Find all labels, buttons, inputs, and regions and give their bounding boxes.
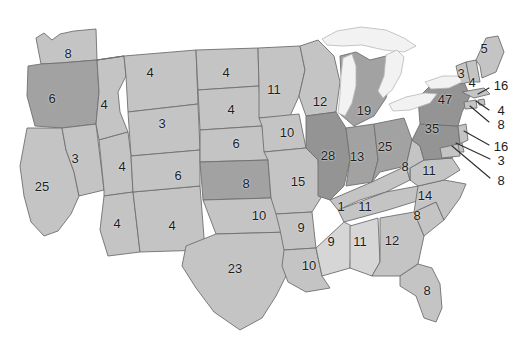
state-value-mi: 19 [357, 104, 371, 117]
state-value-tn: 11 [358, 200, 372, 213]
state-value-sd: 4 [227, 103, 234, 116]
state-value-in: 13 [350, 150, 364, 163]
state-or[interactable]: Oregon [27, 60, 99, 128]
state-value-oh: 25 [378, 140, 392, 153]
state-value-ia: 10 [280, 126, 294, 139]
state-ms[interactable]: Mississippi [316, 222, 352, 276]
state-value-nh: 4 [468, 76, 475, 89]
state-value-nm: 4 [168, 219, 175, 232]
state-value-or: 6 [48, 92, 55, 105]
state-value-mt: 4 [146, 66, 153, 79]
state-nj[interactable]: New Jersey [458, 124, 468, 144]
leader-line-md [452, 146, 490, 178]
state-value-nc: 14 [418, 189, 432, 202]
callout-value-nj: 16 [494, 140, 508, 153]
state-value-nv: 3 [71, 152, 78, 165]
state-value-wi: 12 [313, 95, 327, 108]
state-tx[interactable]: Texas [182, 232, 296, 330]
state-value-fl: 8 [423, 284, 430, 297]
us-map-svg: WashingtonOregonCaliforniaNevadaIdahoMon… [0, 0, 525, 352]
state-value-ga: 12 [385, 234, 399, 247]
state-value-il: 28 [321, 149, 335, 162]
state-value-pa: 35 [425, 122, 439, 135]
callout-value-de: 3 [497, 154, 504, 167]
state-value-ok: 10 [252, 209, 266, 222]
state-value-al: 11 [353, 235, 367, 248]
state-ut[interactable]: Utah [99, 132, 133, 196]
state-shapes-group: WashingtonOregonCaliforniaNevadaIdahoMon… [20, 29, 504, 330]
state-value-ca: 25 [35, 180, 49, 193]
state-value-ks: 8 [242, 177, 249, 190]
lake-superior [322, 27, 416, 52]
state-value-az: 4 [113, 217, 120, 230]
state-value-tx: 23 [228, 262, 242, 275]
state-value-va: 11 [422, 164, 436, 177]
state-value-wy: 3 [158, 117, 165, 130]
callout-value-md: 8 [497, 174, 504, 187]
state-value-me: 5 [480, 42, 487, 55]
state-fl[interactable]: Florida [400, 264, 442, 322]
state-value-ny: 47 [438, 93, 452, 106]
state-ks[interactable]: Kansas [200, 160, 271, 200]
state-value-mn: 11 [267, 83, 281, 96]
state-value-co: 6 [174, 169, 181, 182]
state-value-ar: 9 [297, 221, 304, 234]
state-ri[interactable]: Rhode Island [478, 99, 485, 105]
callout-value-ri: 4 [497, 104, 504, 117]
callout-value-ct: 8 [497, 118, 504, 131]
state-mn[interactable]: Minnesota [258, 46, 305, 118]
state-value-mo: 15 [291, 175, 305, 188]
state-value-vt: 3 [457, 67, 464, 80]
state-value-ms: 9 [327, 235, 334, 248]
state-ct[interactable]: Connecticut [464, 100, 477, 109]
us-value-map: WashingtonOregonCaliforniaNevadaIdahoMon… [0, 0, 525, 352]
callout-value-ma: 16 [494, 79, 508, 92]
state-value-wv: 8 [401, 160, 408, 173]
state-value-ne: 6 [232, 137, 239, 150]
state-value-wa: 8 [64, 47, 71, 60]
state-value-ky: 1 [337, 200, 344, 213]
state-co[interactable]: Colorado [131, 150, 200, 192]
state-value-ut: 4 [118, 160, 125, 173]
state-value-nd: 4 [222, 66, 229, 79]
state-value-sc: 8 [413, 209, 420, 222]
state-value-id: 4 [100, 98, 107, 111]
state-value-la: 10 [302, 259, 316, 272]
